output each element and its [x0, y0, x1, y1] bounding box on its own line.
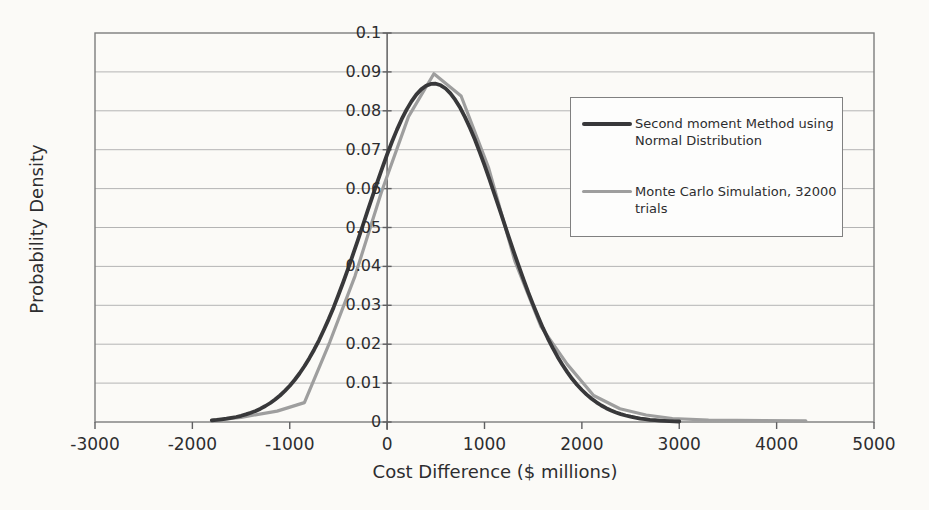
x-tick-label: -1000: [245, 435, 335, 454]
y-tick-label: 0.07: [311, 141, 381, 159]
x-tick-label: 0: [342, 435, 432, 454]
x-tick-label: 3000: [634, 435, 724, 454]
x-tick-label: -3000: [50, 435, 140, 454]
legend-label-normal: Second moment Method using Normal Distri…: [635, 115, 850, 149]
legend-entry-montecarlo: Monte Carlo Simulation, 32000 trials: [582, 183, 850, 217]
legend-box: Second moment Method using Normal Distri…: [570, 97, 843, 237]
y-tick-label: 0.05: [311, 219, 381, 237]
y-tick-label: 0.04: [311, 257, 381, 275]
x-tick-label: 1000: [440, 435, 530, 454]
y-tick-label: 0.03: [311, 296, 381, 314]
y-tick-label: 0.01: [311, 374, 381, 392]
x-tick-label: -2000: [147, 435, 237, 454]
legend-label-montecarlo: Monte Carlo Simulation, 32000 trials: [635, 183, 850, 217]
legend-entry-normal: Second moment Method using Normal Distri…: [582, 115, 850, 149]
x-tick-label: 2000: [537, 435, 627, 454]
x-axis-title: Cost Difference ($ millions): [330, 461, 660, 482]
y-tick-label: 0.02: [311, 335, 381, 353]
x-tick-label: 4000: [732, 435, 822, 454]
chart-figure: Probability Density Cost Difference ($ m…: [0, 0, 929, 510]
line-swatch-icon: [582, 122, 632, 126]
x-tick-label: 5000: [829, 435, 919, 454]
y-tick-label: 0.1: [311, 24, 381, 42]
y-tick-label: 0.08: [311, 102, 381, 120]
y-tick-label: 0: [311, 413, 381, 431]
y-tick-label: 0.06: [311, 180, 381, 198]
y-axis-title: Probability Density: [26, 117, 50, 341]
y-tick-label: 0.09: [311, 63, 381, 81]
line-swatch-icon: [582, 190, 632, 193]
